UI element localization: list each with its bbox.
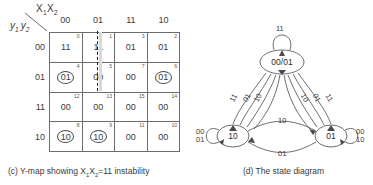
- edge-label-left-to-right: 10: [278, 117, 286, 125]
- caption-c-prefix: (c) Y-map showing X: [8, 166, 86, 176]
- node-label-left: 10: [221, 131, 245, 141]
- kmap-cell: 0 11: [50, 33, 83, 62]
- kmap-cell: 15 00: [115, 93, 148, 122]
- kmap-cell: 6 01: [148, 63, 180, 92]
- kmap-cell-value: 01: [158, 42, 168, 52]
- kmap-cell: 3 01: [115, 33, 148, 62]
- kmap-cell: 8 10: [50, 122, 83, 151]
- kmap-cell-value: 01: [126, 42, 136, 52]
- kmap-cell: 10 00: [148, 122, 180, 151]
- kmap-cell-value-circled: 01: [57, 71, 74, 84]
- kmap-col-header-2: 11: [115, 15, 148, 29]
- kmap-row: 12 00 13 00 15 00 14 00: [50, 93, 179, 123]
- caption-c-suffix: =11 instability: [98, 166, 149, 176]
- kmap-cell: 12 00: [50, 93, 83, 122]
- kmap-cell-value-circled: 10: [57, 130, 74, 143]
- caption-c: (c) Y-map showing X1X2=11 instability: [8, 166, 149, 178]
- kmap-cell-index: 0: [77, 33, 80, 40]
- kmap-row: 8 10 9 10 11 00 10 00: [50, 122, 179, 151]
- kmap-cell-index: 9: [109, 122, 112, 129]
- kmap-cell-value: 11: [61, 42, 70, 52]
- kmap-row-header-2: 11: [14, 92, 48, 122]
- kmap-col-header-1: 01: [82, 15, 115, 29]
- kmap-row-header-1: 01: [14, 62, 48, 92]
- kmap-cell-index: 11: [139, 122, 144, 129]
- kmap-cell-index: 13: [106, 93, 112, 100]
- kmap-column-headers: 00 01 11 10: [49, 15, 180, 29]
- kmap-cell-value: 00: [93, 102, 103, 112]
- caption-d: (d) The state diagram: [243, 166, 324, 176]
- kmap-cell-index: 2: [174, 33, 177, 40]
- kmap-cell: 14 00: [148, 93, 180, 122]
- kmap-row-headers: 00 01 11 10: [14, 32, 48, 152]
- kmap-col-header-0: 00: [49, 15, 82, 29]
- kmap-instability-marker: [97, 31, 101, 91]
- kmap-cell-index: 10: [171, 122, 177, 129]
- kmap-grid: 0 11 1 11 3 01 2 01 4: [49, 32, 180, 152]
- kmap-cell-index: 6: [174, 63, 177, 70]
- kmap-cell: 2 01: [148, 33, 180, 62]
- kmap-cell-index: 4: [77, 63, 80, 70]
- kmap-cell-value-circled: 10: [90, 130, 107, 143]
- kmap-panel: X1X2 y1 y2 00 01 11 10 00 01 11 10 0 11: [0, 0, 190, 185]
- kmap-cell-value-circled: 01: [155, 71, 172, 84]
- kmap-cell-index: 14: [171, 93, 177, 100]
- kmap-cell-value: 00: [126, 102, 136, 112]
- kmap-col-header-3: 10: [147, 15, 180, 29]
- node-label-top: 00/01: [260, 57, 304, 67]
- kmap-cell-index: 8: [77, 122, 80, 129]
- kmap-cell-value: 00: [126, 132, 136, 142]
- kmap-cell: 7 00: [115, 63, 148, 92]
- kmap-row: 4 01 5 00 7 00 6 01: [50, 63, 179, 93]
- kmap-cell-index: 3: [142, 33, 145, 40]
- kmap-cell: 9 10: [83, 122, 116, 151]
- kmap-row-header-0: 00: [14, 32, 48, 62]
- kmap-cell-index: 1: [109, 33, 112, 40]
- self-loop-label-right-line2: 10: [356, 136, 364, 144]
- kmap-cell-value: 00: [158, 102, 168, 112]
- kmap-cell-value: 00: [158, 132, 168, 142]
- kmap-cell-index: 5: [109, 63, 112, 70]
- kmap-cell: 13 00: [83, 93, 116, 122]
- self-loop-label-top: 11: [276, 25, 284, 33]
- figure-container: X1X2 y1 y2 00 01 11 10 00 01 11 10 0 11: [0, 0, 373, 185]
- kmap-row-header-3: 10: [14, 122, 48, 152]
- kmap-cell: 11 00: [115, 122, 148, 151]
- kmap-cell-index: 12: [74, 93, 80, 100]
- kmap-row: 0 11 1 11 3 01 2 01: [50, 33, 179, 63]
- kmap-cell-value: 00: [126, 72, 136, 82]
- state-diagram-panel: 00/01 10 01 11 00 01 00 10 11 01 10 10 0…: [190, 0, 373, 185]
- node-label-right: 01: [319, 131, 343, 141]
- kmap-cell-index: 7: [142, 63, 145, 70]
- kmap-cell-index: 15: [139, 93, 145, 100]
- kmap-cell-value: 00: [61, 102, 71, 112]
- edge-label-right-to-left: 01: [278, 150, 286, 158]
- edge-top-right-path-1: [284, 75, 310, 129]
- kmap-cell: 4 01: [50, 63, 83, 92]
- self-loop-top-node-path: [273, 35, 291, 50]
- self-loop-label-left-line2: 01: [196, 136, 204, 144]
